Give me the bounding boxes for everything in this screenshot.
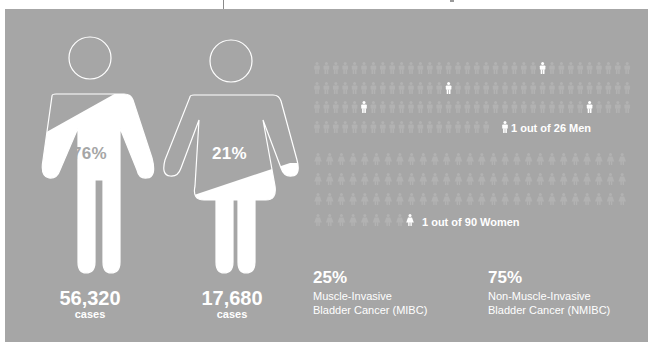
man-pictogram-icon <box>436 101 442 113</box>
woman-pictogram-icon <box>408 193 416 205</box>
man-pictogram-icon <box>465 101 471 113</box>
man-pictogram-icon <box>399 121 405 133</box>
man-pictogram-icon <box>314 82 320 94</box>
man-pictogram-icon <box>596 101 602 113</box>
women-ratio-label: 1 out of 90 Women <box>422 216 520 228</box>
man-pictogram-icon <box>361 62 367 74</box>
man-pictogram-icon <box>352 121 358 133</box>
woman-pictogram-icon <box>478 153 486 165</box>
woman-pictogram-icon <box>455 173 463 185</box>
woman-pictogram-icon <box>443 173 451 185</box>
man-pictogram-icon <box>436 121 442 133</box>
man-pictogram-icon <box>493 82 499 94</box>
woman-pictogram-icon <box>548 193 556 205</box>
mibc-percent: 25% <box>313 269 427 287</box>
man-pictogram-icon <box>436 62 442 74</box>
man-pictogram-icon <box>606 82 612 94</box>
woman-pictogram-icon <box>431 193 439 205</box>
man-pictogram-icon <box>568 101 574 113</box>
woman-pictogram-icon <box>607 173 615 185</box>
woman-pictogram-icon <box>572 153 580 165</box>
highlighted-man-icon <box>587 101 593 113</box>
man-pictogram-icon <box>408 62 414 74</box>
man-pictogram-icon <box>530 101 536 113</box>
man-pictogram-icon <box>559 101 565 113</box>
man-pictogram-icon <box>530 82 536 94</box>
man-pictogram-icon <box>314 101 320 113</box>
man-pictogram-icon <box>446 101 452 113</box>
man-pictogram-icon <box>314 121 320 133</box>
nmibc-line2: Bladder Cancer (NMIBC) <box>488 303 610 317</box>
man-pictogram-icon <box>408 101 414 113</box>
man-pictogram-icon <box>455 82 461 94</box>
woman-pictogram-icon <box>361 153 369 165</box>
woman-pictogram-icon <box>572 193 580 205</box>
woman-pictogram-icon <box>373 193 381 205</box>
woman-pictogram-icon <box>384 173 392 185</box>
man-pictogram-icon <box>455 121 461 133</box>
woman-pictogram-icon <box>443 153 451 165</box>
man-pictogram-icon <box>324 101 330 113</box>
man-pictogram-icon <box>324 121 330 133</box>
woman-pictogram-icon <box>548 173 556 185</box>
man-pictogram-icon <box>408 121 414 133</box>
woman-pictogram-icon <box>607 193 615 205</box>
man-pictogram-icon <box>427 101 433 113</box>
woman-pictogram-icon <box>583 193 591 205</box>
woman-pictogram-icon <box>326 214 334 226</box>
man-pictogram-icon <box>399 82 405 94</box>
mibc-line1: Muscle-Invasive <box>313 289 427 303</box>
mibc-line2: Bladder Cancer (MIBC) <box>313 303 427 317</box>
man-pictogram-icon <box>577 62 583 74</box>
woman-pictogram-icon <box>338 173 346 185</box>
highlighted-woman-icon <box>406 214 414 226</box>
man-pictogram-icon <box>596 82 602 94</box>
man-pictogram-icon <box>615 101 621 113</box>
woman-pictogram-icon <box>583 173 591 185</box>
woman-pictogram-icon <box>420 193 428 205</box>
woman-pictogram-icon <box>466 173 474 185</box>
man-pictogram-icon <box>549 82 555 94</box>
woman-pictogram-icon <box>618 193 626 205</box>
woman-pictogram-icon <box>537 173 545 185</box>
woman-pictogram-icon <box>420 173 428 185</box>
nmibc-line1: Non-Muscle-Invasive <box>488 289 610 303</box>
man-pictogram-icon <box>333 82 339 94</box>
man-pictogram-icon <box>399 62 405 74</box>
highlighted-man-icon <box>502 121 508 133</box>
man-pictogram-icon <box>521 101 527 113</box>
man-pictogram-icon <box>427 82 433 94</box>
man-pictogram-icon <box>568 62 574 74</box>
man-pictogram-icon <box>559 62 565 74</box>
woman-pictogram-icon <box>373 173 381 185</box>
man-pictogram-icon <box>474 101 480 113</box>
man-pictogram-icon <box>380 121 386 133</box>
man-pictogram-icon <box>371 101 377 113</box>
highlighted-man-icon <box>540 62 546 74</box>
man-pictogram-icon <box>333 101 339 113</box>
woman-pictogram-icon <box>361 214 369 226</box>
man-pictogram-icon <box>418 101 424 113</box>
woman-pictogram-icon <box>525 173 533 185</box>
woman-pictogram-icon <box>314 193 322 205</box>
man-pictogram-icon <box>465 121 471 133</box>
woman-pictogram-icon <box>314 153 322 165</box>
man-pictogram-icon <box>371 121 377 133</box>
woman-pictogram-icon <box>466 153 474 165</box>
man-pictogram-icon <box>587 62 593 74</box>
woman-pictogram-icon <box>326 153 334 165</box>
man-pictogram-icon <box>521 62 527 74</box>
woman-pictogram-icon <box>349 193 357 205</box>
man-pictogram-icon <box>474 62 480 74</box>
man-pictogram-icon <box>352 62 358 74</box>
woman-pictogram-icon <box>396 173 404 185</box>
woman-pictogram-icon <box>501 153 509 165</box>
man-pictogram-icon <box>540 101 546 113</box>
woman-pictogram-icon <box>396 214 404 226</box>
woman-pictogram-icon <box>490 193 498 205</box>
man-pictogram-icon <box>465 62 471 74</box>
man-pictogram-icon <box>352 101 358 113</box>
man-pictogram-icon <box>615 82 621 94</box>
man-pictogram-icon <box>587 82 593 94</box>
men-ratio-label: 1 out of 26 Men <box>511 122 591 134</box>
